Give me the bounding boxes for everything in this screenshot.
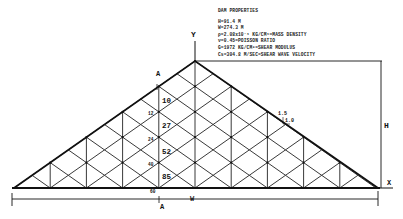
dam-outline: [14, 61, 378, 188]
depth-label-12: 12: [148, 111, 153, 116]
dam-diagram: [0, 0, 403, 219]
property-poisson-ratio: ν=0.45=POISSON RATIO: [218, 38, 315, 45]
section-label-top: A: [156, 70, 160, 78]
depth-label-60: 60: [150, 189, 155, 194]
finite-element-mesh: [14, 61, 376, 188]
y-axis-label: Y: [191, 30, 196, 39]
element-label-52: 52: [162, 148, 171, 156]
height-dimension-label: H: [384, 121, 389, 130]
depth-label-40: 40: [148, 162, 153, 167]
element-label-27: 27: [162, 122, 171, 130]
slope-horizontal-label: 1.5: [278, 111, 287, 117]
property-width: W=274.3 M: [218, 25, 315, 32]
x-axis-label: X: [387, 179, 391, 187]
property-height: H=91.4 M: [218, 19, 315, 26]
property-shear-wave-velocity: Cs=304.8 M/SEC=SHEAR WAVE VELOCITY: [218, 52, 315, 59]
property-mass-density: ρ=2.08x10⁻³ KG/CM³=MASS DENSITY: [218, 32, 315, 39]
property-shear-modulus: G=1972 KG/CM²=SHEAR MODULUS: [218, 45, 315, 52]
dam-properties-block: DAM PROPERTIES H=91.4 M W=274.3 M ρ=2.08…: [218, 8, 315, 58]
section-label-bottom: A: [160, 203, 164, 211]
properties-title: DAM PROPERTIES: [218, 8, 315, 15]
element-label-10: 10: [162, 97, 171, 105]
width-dimension-label: W: [190, 195, 194, 203]
slope-vertical-label: 1.0: [285, 118, 294, 124]
depth-label-24: 24: [148, 137, 153, 142]
element-label-85: 85: [162, 173, 171, 181]
